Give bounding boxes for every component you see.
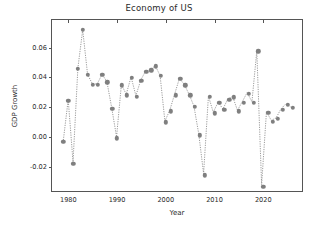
x-axis-label: Year [51, 209, 303, 217]
chart-title: Economy of US [0, 3, 318, 13]
x-tick-label: 2010 [206, 191, 223, 204]
series-polyline [63, 30, 290, 185]
y-tick-mark [49, 167, 52, 168]
chart-figure: Economy of US GDP Growth -0.020.000.020.… [0, 0, 318, 228]
x-tick-label: 1980 [60, 191, 77, 204]
y-axis-label: GDP Growth [9, 19, 21, 192]
y-tick-mark [49, 48, 52, 49]
y-axis-label-text: GDP Growth [11, 84, 19, 127]
x-tick-mark [68, 20, 69, 23]
x-tick-label: 2020 [255, 191, 272, 204]
x-tick-mark [117, 20, 118, 23]
x-tick-label: 1990 [109, 191, 126, 204]
y-tick-mark [49, 107, 52, 108]
data-line-svg [52, 20, 302, 191]
x-tick-mark [215, 20, 216, 23]
x-tick-mark [263, 20, 264, 23]
x-tick-mark [166, 20, 167, 23]
x-tick-label: 2000 [157, 191, 174, 204]
plot-area: -0.020.000.020.040.06 198019902000201020… [51, 19, 303, 192]
y-tick-mark [49, 137, 52, 138]
y-tick-mark [49, 77, 52, 78]
